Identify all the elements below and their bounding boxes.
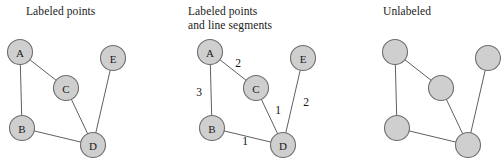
graph-edge-weight: 2 bbox=[303, 96, 309, 108]
graph-edge bbox=[283, 58, 303, 145]
graph-labeled: ABCDE bbox=[0, 0, 170, 165]
panel-labeled-points: Labeled points ABCDE bbox=[0, 0, 170, 165]
graph-weighted: ABCDE23112 bbox=[170, 0, 335, 165]
graph-node bbox=[385, 116, 410, 141]
graph-node-label: E bbox=[110, 53, 117, 65]
graph-node bbox=[476, 46, 501, 71]
graph-node-label: C bbox=[62, 83, 69, 95]
figure-root: Labeled points ABCDE Labeled points and … bbox=[0, 0, 501, 165]
graph-edge bbox=[93, 58, 113, 145]
graph-node bbox=[456, 133, 481, 158]
graph-edge-weight: 1 bbox=[242, 135, 248, 147]
graph-node-label: B bbox=[208, 123, 215, 135]
graph-node-label: D bbox=[279, 140, 287, 152]
graph-unlabeled bbox=[335, 0, 501, 165]
graph-node-label: E bbox=[300, 53, 307, 65]
graph-edge-weight: 2 bbox=[235, 57, 241, 69]
graph-edge bbox=[468, 58, 488, 145]
graph-node-label: D bbox=[89, 140, 97, 152]
graph-edge-weight: 1 bbox=[275, 104, 281, 116]
graph-edge-weight: 3 bbox=[196, 86, 202, 98]
graph-node-label: A bbox=[206, 47, 214, 59]
graph-node-label: A bbox=[16, 47, 24, 59]
panel-labeled-weighted: Labeled points and line segments ABCDE23… bbox=[170, 0, 335, 165]
graph-node-label: B bbox=[18, 123, 25, 135]
graph-node bbox=[383, 40, 408, 65]
graph-node bbox=[429, 76, 454, 101]
graph-node-label: C bbox=[252, 83, 259, 95]
panel-unlabeled: Unlabeled bbox=[335, 0, 501, 165]
